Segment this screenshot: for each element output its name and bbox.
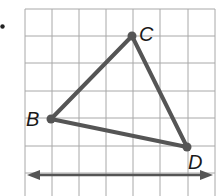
vertex-c [128,32,137,41]
left-arrowhead-icon [27,170,40,180]
double-arrow-line [27,170,213,180]
vertex-b [47,115,56,124]
label-d: D [188,151,202,173]
right-arrowhead-icon [200,170,213,180]
label-c: C [139,23,154,45]
problem-bullet [0,24,4,28]
geometry-figure: B C D [0,0,218,196]
label-b: B [26,108,39,130]
grid [25,9,215,196]
